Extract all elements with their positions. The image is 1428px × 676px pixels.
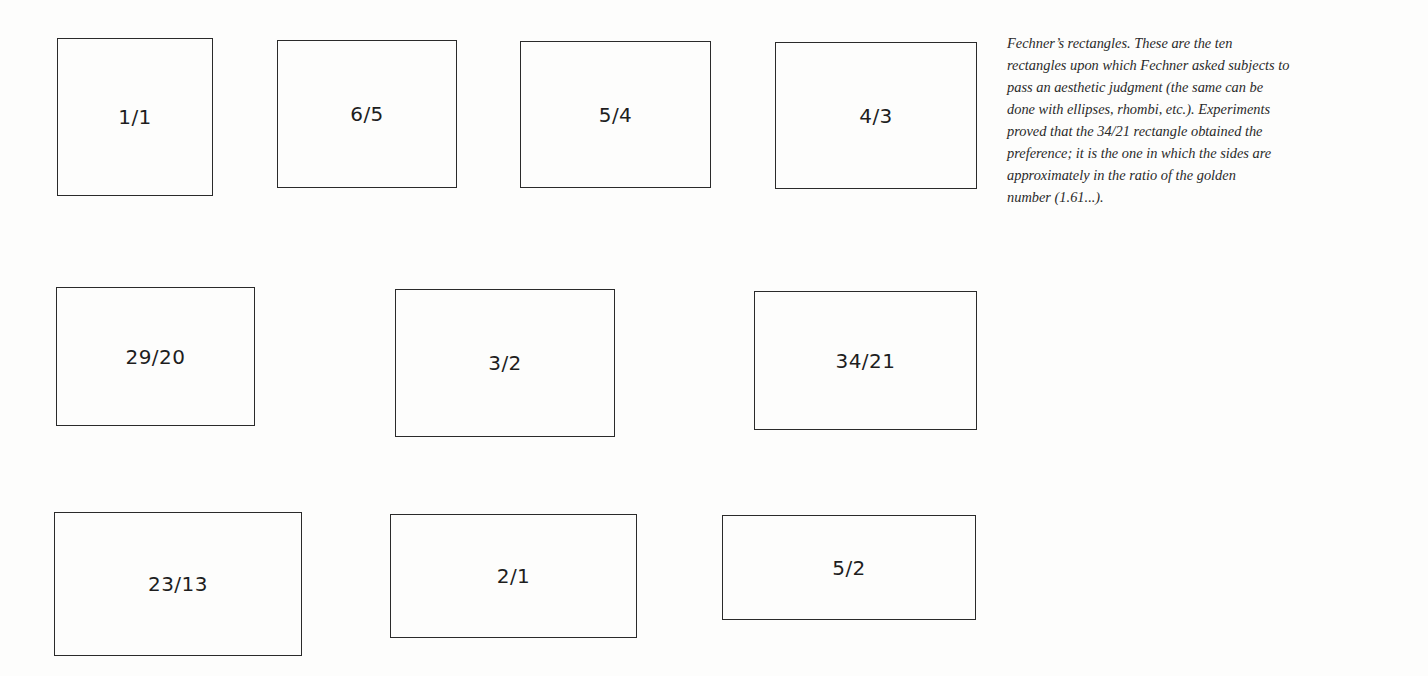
- rectangle-3-2: 3/2: [395, 289, 615, 437]
- caption-line: rectangles upon which Fechner asked subj…: [1007, 54, 1427, 76]
- rectangle-1-1: 1/1: [57, 38, 213, 196]
- ratio-label: 1/1: [118, 105, 152, 129]
- caption-line: done with ellipses, rhombi, etc.). Exper…: [1007, 98, 1427, 120]
- ratio-label: 34/21: [835, 349, 895, 373]
- ratio-label: 5/2: [832, 556, 866, 580]
- ratio-label: 3/2: [488, 351, 522, 375]
- caption-line: proved that the 34/21 rectangle obtained…: [1007, 120, 1427, 142]
- rectangle-5-2: 5/2: [722, 515, 976, 620]
- rectangle-23-13: 23/13: [54, 512, 302, 656]
- rectangle-6-5: 6/5: [277, 40, 457, 188]
- rectangle-5-4: 5/4: [520, 41, 711, 188]
- rectangle-34-21: 34/21: [754, 291, 977, 430]
- caption-line: pass an aesthetic judgment (the same can…: [1007, 76, 1427, 98]
- caption-line: number (1.61...).: [1007, 186, 1427, 208]
- caption-line: preference; it is the one in which the s…: [1007, 142, 1427, 164]
- caption-line: approximately in the ratio of the golden: [1007, 164, 1427, 186]
- ratio-label: 5/4: [599, 103, 633, 127]
- caption-line: Fechner’s rectangles. These are the ten: [1007, 32, 1427, 54]
- rectangle-29-20: 29/20: [56, 287, 255, 426]
- figure-caption: Fechner’s rectangles. These are the ten …: [1007, 32, 1427, 208]
- ratio-label: 2/1: [497, 564, 531, 588]
- ratio-label: 29/20: [125, 345, 185, 369]
- ratio-label: 4/3: [859, 104, 893, 128]
- ratio-label: 6/5: [350, 102, 384, 126]
- rectangle-4-3: 4/3: [775, 42, 977, 189]
- ratio-label: 23/13: [148, 572, 208, 596]
- rectangle-2-1: 2/1: [390, 514, 637, 638]
